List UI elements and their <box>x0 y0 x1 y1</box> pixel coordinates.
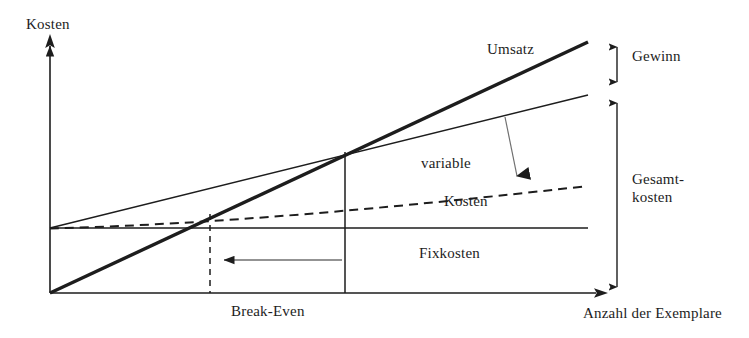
gewinn-label: Gewinn <box>632 48 681 65</box>
series-group <box>50 42 588 293</box>
variable-label: variable <box>421 155 471 172</box>
gesamtkosten-label-line1: Gesamt- <box>632 170 684 188</box>
break-even-label: Break-Even <box>231 303 305 320</box>
variable-kosten-line <box>50 186 588 229</box>
gesamtkosten-label-line2: kosten <box>632 188 672 206</box>
umsatz-line <box>50 42 588 293</box>
break-even-group <box>210 152 345 293</box>
y-axis-arrowhead <box>45 34 55 48</box>
kosten-label: Kosten <box>444 193 488 210</box>
x-axis-label: Anzahl der Exemplare <box>583 305 722 322</box>
fixkosten-label: Fixkosten <box>419 245 480 262</box>
variable-kosten-callout <box>505 117 517 176</box>
gesamtkosten-line <box>50 95 588 228</box>
umsatz-label: Umsatz <box>487 41 534 58</box>
break-even-chart: Kosten Anzahl der Exemplare Umsatz Gewin… <box>0 0 749 338</box>
variable-kosten-pointer-arrow <box>505 117 517 176</box>
y-axis-label: Kosten <box>26 16 70 33</box>
x-axis-arrowhead <box>594 288 608 298</box>
